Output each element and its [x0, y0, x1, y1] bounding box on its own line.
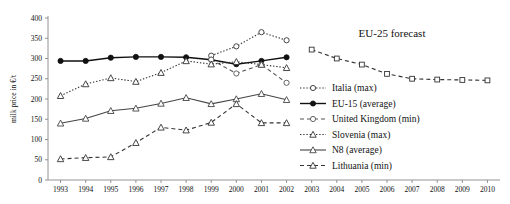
legend-item[interactable]: United Kingdom (min)	[300, 114, 420, 125]
legend-item[interactable]: N8 (average)	[300, 145, 382, 156]
legend-label: N8 (average)	[332, 145, 382, 156]
x-tick-label: 2005	[354, 185, 369, 194]
data-point	[234, 71, 239, 76]
data-point	[234, 44, 239, 49]
y-axis-title: milk price in €/t	[9, 74, 18, 123]
data-point	[133, 54, 138, 59]
series-lithuania-min	[57, 101, 289, 162]
y-tick-label: 300	[31, 54, 43, 63]
data-point	[58, 58, 63, 63]
legend-label: EU-15 (average)	[332, 99, 396, 110]
legend-item[interactable]: EU-15 (average)	[300, 99, 396, 110]
legend-label: Lithuania (min)	[332, 161, 392, 172]
y-tick-label: 400	[31, 14, 43, 23]
series-line	[312, 50, 488, 81]
x-tick-label: 2007	[405, 185, 420, 194]
legend-item[interactable]: Italia (max)	[300, 83, 377, 94]
y-tick-label: 150	[31, 115, 43, 124]
data-point	[385, 71, 390, 76]
x-tick-label: 2000	[229, 185, 244, 194]
y-tick-label: 50	[35, 155, 43, 164]
series-line	[61, 57, 287, 64]
x-tick-label: 1999	[204, 185, 219, 194]
data-point	[133, 140, 139, 146]
data-point	[183, 95, 189, 101]
x-tick-label: 1994	[78, 185, 93, 194]
legend-marker	[310, 85, 315, 90]
data-point	[108, 55, 113, 60]
legend-item[interactable]: Lithuania (min)	[300, 161, 392, 172]
series-eu-15-average	[58, 54, 289, 66]
x-tick-label: 2008	[430, 185, 445, 194]
series-slovenia-max	[57, 58, 289, 99]
y-tick-label: 250	[31, 74, 43, 83]
data-point	[485, 78, 490, 83]
data-point	[309, 47, 314, 52]
y-tick-label: 0	[38, 176, 42, 185]
annotation-eu25-forecast: EU-25 forecast	[359, 27, 426, 39]
x-tick-label: 2009	[455, 185, 470, 194]
data-point	[334, 56, 339, 61]
milk-price-chart: 0501001502002503003504001993199419951996…	[0, 0, 510, 204]
x-tick-label: 2003	[304, 185, 319, 194]
x-tick-label: 2001	[254, 185, 269, 194]
y-tick-label: 350	[31, 34, 43, 43]
series-line	[61, 61, 287, 96]
x-tick-label: 1996	[128, 185, 143, 194]
series-line	[61, 104, 287, 159]
x-tick-label: 1993	[53, 185, 68, 194]
series-eu-25-forecast	[309, 47, 490, 83]
data-point	[158, 124, 164, 130]
data-point	[284, 80, 289, 85]
x-tick-label: 2004	[329, 185, 344, 194]
x-tick-label: 2006	[380, 185, 395, 194]
legend-label: Italia (max)	[332, 83, 377, 94]
data-point	[283, 65, 289, 71]
series-italia-max	[209, 30, 290, 59]
y-tick-label: 200	[31, 95, 43, 104]
data-point	[284, 38, 289, 43]
data-point	[435, 77, 440, 82]
data-point	[83, 58, 88, 63]
x-tick-label: 1995	[103, 185, 118, 194]
data-point	[284, 55, 289, 60]
data-point	[258, 91, 264, 97]
legend-item[interactable]: Slovenia (max)	[300, 130, 390, 141]
data-point	[359, 62, 364, 67]
legend-label: Slovenia (max)	[332, 130, 390, 141]
series-n8-average	[57, 91, 289, 126]
x-tick-label: 2010	[480, 185, 495, 194]
x-tick-label: 2002	[279, 185, 294, 194]
y-tick-label: 100	[31, 135, 43, 144]
x-tick-label: 1998	[179, 185, 194, 194]
data-point	[158, 69, 164, 75]
series-line	[61, 94, 287, 124]
data-point	[57, 93, 63, 99]
data-point	[108, 75, 114, 81]
data-point	[259, 30, 264, 35]
legend-marker	[310, 101, 315, 106]
data-point	[108, 154, 114, 160]
legend: Italia (max)EU-15 (average)United Kingdo…	[300, 83, 420, 171]
data-point	[158, 54, 163, 59]
chart-canvas: 0501001502002503003504001993199419951996…	[0, 0, 510, 204]
x-tick-label: 1997	[154, 185, 169, 194]
legend-marker	[310, 116, 315, 121]
legend-label: United Kingdom (min)	[332, 114, 420, 125]
data-point	[410, 76, 415, 81]
data-point	[460, 78, 465, 83]
series-line	[211, 32, 286, 55]
